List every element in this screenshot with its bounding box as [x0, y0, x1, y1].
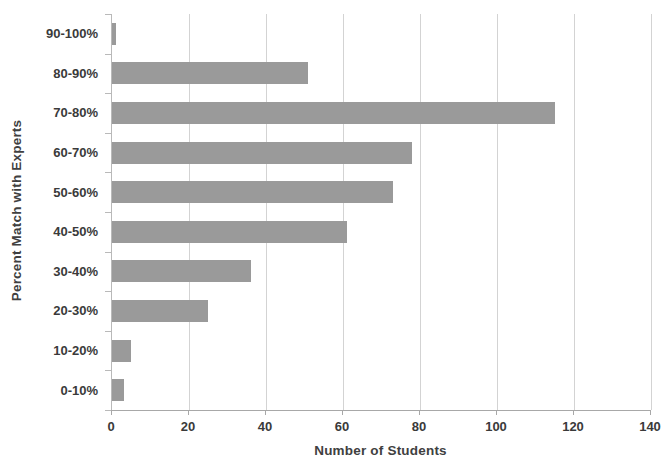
x-axis-title: Number of Students [111, 443, 650, 458]
plot-area [111, 14, 650, 410]
bar [112, 379, 124, 401]
bar [112, 23, 116, 45]
y-axis-tick-label: 60-70% [30, 133, 106, 173]
bar-row [112, 331, 650, 371]
x-axis-tick-label: 120 [562, 419, 584, 434]
y-axis-tick-label: 30-40% [30, 252, 106, 292]
y-axis-tick-label: 70-80% [30, 93, 106, 133]
bar-row [112, 172, 650, 212]
x-axis-tick-label: 40 [258, 419, 272, 434]
bar-row [112, 291, 650, 331]
bar [112, 260, 251, 282]
bar-row [112, 93, 650, 133]
bar-row [112, 370, 650, 410]
y-axis-tick-label: 50-60% [30, 172, 106, 212]
bar-row [112, 252, 650, 292]
y-axis-tick-label: 40-50% [30, 212, 106, 252]
y-axis-tick-label: 0-10% [30, 370, 106, 410]
y-axis-tick-label: 80-90% [30, 54, 106, 94]
x-axis-tick-label: 100 [485, 419, 507, 434]
bar-row [112, 54, 650, 94]
x-axis-tick-labels: 020406080100120140 [111, 419, 650, 439]
x-axis-tickmark [265, 410, 266, 415]
bar [112, 102, 555, 124]
bar [112, 221, 347, 243]
bar [112, 300, 208, 322]
x-axis-tick-label: 0 [107, 419, 114, 434]
bar [112, 340, 131, 362]
x-axis-tickmarks [111, 410, 650, 416]
x-axis-tick-label: 60 [335, 419, 349, 434]
y-axis-tick-label: 90-100% [30, 14, 106, 54]
y-axis-title: Percent Match with Experts [0, 0, 34, 420]
bar [112, 142, 412, 164]
x-axis-tickmark [342, 410, 343, 415]
bar [112, 181, 393, 203]
gridline [651, 14, 652, 410]
x-axis-tickmark [650, 410, 651, 415]
y-axis-tick-label: 20-30% [30, 291, 106, 331]
x-axis-tickmark [496, 410, 497, 415]
bar-series [112, 14, 650, 410]
x-axis-tickmark [188, 410, 189, 415]
x-axis-tick-label: 80 [412, 419, 426, 434]
x-axis-tickmark [111, 410, 112, 415]
bar-row [112, 212, 650, 252]
bar-chart: Percent Match with Experts 90-100%80-90%… [0, 0, 665, 469]
bar [112, 62, 308, 84]
bar-row [112, 133, 650, 173]
x-axis-tickmark [573, 410, 574, 415]
y-axis-tick-label: 10-20% [30, 331, 106, 371]
bar-row [112, 14, 650, 54]
x-axis-tickmark [419, 410, 420, 415]
y-axis-tick-labels: 90-100%80-90%70-80%60-70%50-60%40-50%30-… [30, 14, 106, 410]
y-axis-title-label: Percent Match with Experts [10, 119, 25, 301]
x-axis-tick-label: 140 [639, 419, 661, 434]
x-axis-tick-label: 20 [181, 419, 195, 434]
